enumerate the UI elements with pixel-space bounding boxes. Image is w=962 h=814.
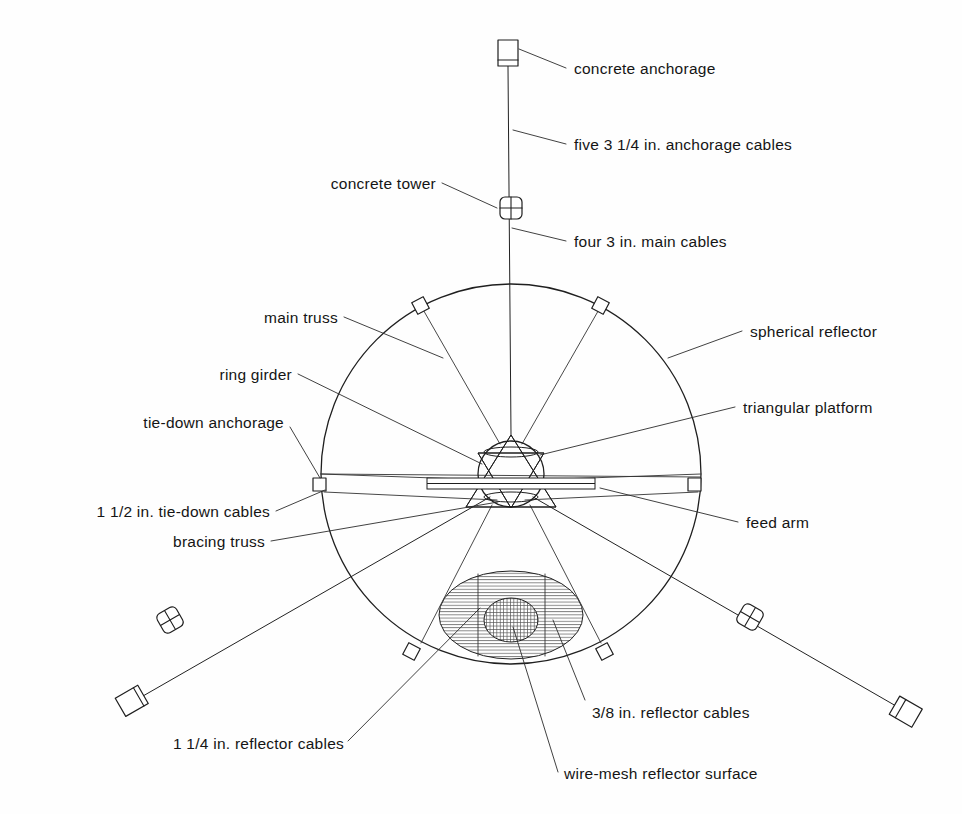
label-main-truss: main truss: [264, 309, 338, 326]
label-wire-mesh-surface: wire-mesh reflector surface: [563, 765, 758, 782]
main-cable-lower-left: [143, 497, 490, 696]
main-truss-nw: [421, 306, 500, 444]
leader-concrete-tower: [442, 183, 497, 208]
dish-inner-ellipse: [484, 598, 538, 642]
concrete-tower-lower-left: [155, 605, 185, 635]
leader-ring-girder: [298, 374, 482, 464]
leader-triangular-platform: [540, 407, 735, 455]
rim-anchorage-ne: [592, 297, 610, 315]
label-concrete-anchorage: concrete anchorage: [574, 60, 716, 77]
ring-girder: [478, 441, 544, 507]
triangular-platform: [466, 435, 556, 508]
concrete-anchorage-top: [498, 40, 518, 66]
diagram-canvas: concrete anchorage five 3 1/4 in. anchor…: [0, 0, 962, 814]
wire-mesh-reflector-surface: [439, 571, 583, 659]
label-tie-down-cables: 1 1/2 in. tie-down cables: [97, 503, 270, 520]
leader-bracing-truss: [271, 502, 498, 541]
leader-anchorage-cables: [513, 130, 566, 144]
platform-outer-triangle: [466, 435, 556, 507]
tie-down-anchorage-east: [688, 478, 701, 491]
ring-girder-arc-bottom: [484, 492, 538, 502]
leader-tie-down-anchorage: [290, 427, 320, 478]
leader-main-truss: [344, 317, 443, 358]
leader-concrete-anchorage: [519, 49, 566, 68]
concrete-anchorage-lower-left: [115, 685, 148, 716]
main-truss-ne: [522, 306, 601, 444]
label-bracing-truss: bracing truss: [173, 533, 265, 550]
leader-reflector-cables-114: [348, 608, 480, 741]
label-concrete-tower: concrete tower: [331, 175, 436, 192]
main-cable-top: [508, 66, 511, 435]
telescope-diagram-svg: concrete anchorage five 3 1/4 in. anchor…: [0, 0, 962, 814]
feed-arm: [427, 478, 595, 489]
concrete-anchorage-lower-right: [889, 696, 922, 727]
rim-anchorage-se: [596, 643, 614, 661]
label-spherical-reflector: spherical reflector: [750, 323, 877, 340]
label-reflector-cables-114: 1 1/4 in. reflector cables: [173, 735, 344, 752]
leader-tie-down-cables: [276, 490, 325, 511]
main-cable-lower-right: [533, 497, 896, 706]
label-tie-down-anchorage: tie-down anchorage: [143, 414, 284, 431]
label-feed-arm: feed arm: [746, 514, 809, 531]
leader-main-cables: [512, 228, 566, 241]
bracing-truss-horizontal: [321, 474, 700, 477]
leader-spherical-reflector: [668, 331, 742, 358]
label-triangular-platform: triangular platform: [743, 399, 873, 416]
label-ring-girder: ring girder: [219, 366, 292, 383]
anchorage-sw-body: [115, 685, 148, 716]
label-anchorage-cables: five 3 1/4 in. anchorage cables: [574, 136, 792, 153]
label-reflector-cables-38: 3/8 in. reflector cables: [592, 704, 750, 721]
ring-girder-arc-top: [484, 447, 538, 457]
anchorage-top-body: [498, 40, 518, 66]
rim-anchorage-sw: [403, 643, 421, 661]
tie-down-anchorage-west: [313, 478, 326, 491]
concrete-tower-top: [500, 197, 522, 219]
label-main-cables: four 3 in. main cables: [574, 233, 727, 250]
rim-anchorage-nw: [412, 297, 430, 315]
